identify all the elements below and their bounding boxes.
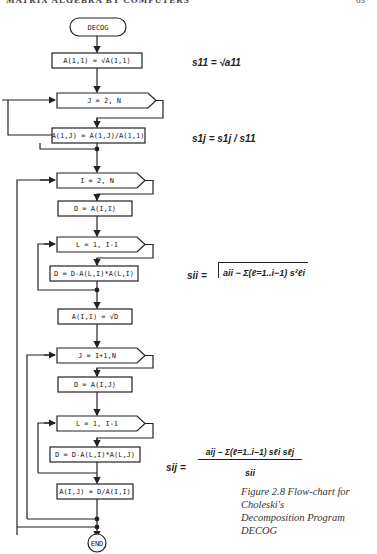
n2-label: A(1,J) = A(1,J)/A(1,1) (52, 132, 145, 140)
formula-s11: s11 = √a11 (192, 57, 241, 68)
end-label: END (91, 540, 104, 548)
n1-label: A(1,1) = √A(1,1) (63, 57, 130, 65)
caption-line-1: Figure 2.8 Flow-chart for Choleski's (241, 485, 377, 511)
loop2-label: I = 2, N (80, 177, 114, 185)
formula-sij-denominator: sii (198, 468, 302, 478)
n4-label: D = D-A(L,I)*A(L,I) (54, 270, 134, 278)
n7-label: D = D-A(L,I)*A(L,J) (55, 451, 135, 459)
loop4-label: J = I+1,N (78, 352, 116, 360)
n6-label: D = A(I,J) (74, 381, 116, 389)
formula-s1j: s1j = s1j / s11 (192, 133, 255, 144)
n8-label: A(I,J) = D/A(I,I) (59, 488, 131, 496)
caption-line-2: Decomposition Program DECOG (241, 511, 377, 537)
loop1-label: J = 2, N (87, 97, 121, 105)
start-label: DECOG (87, 24, 108, 32)
n3-label: D = A(I,I) (74, 205, 116, 213)
loop3-label: L = 1, I-1 (76, 241, 118, 249)
loop5-label: L = 1, I-1 (76, 420, 118, 428)
n5-label: A(I,I) = √D (72, 313, 118, 321)
figure-caption: Figure 2.8 Flow-chart for Choleski's Dec… (241, 485, 377, 537)
formula-sii-body: aii − Σ(ℓ=1..i−1) s²ℓi (218, 262, 308, 278)
formula-sii-lhs: sii = (187, 270, 207, 281)
formula-sij-lhs: sij = (166, 462, 186, 473)
formula-sij-numerator: aij − Σ(ℓ=1..i−1) sℓi sℓj (198, 447, 302, 460)
